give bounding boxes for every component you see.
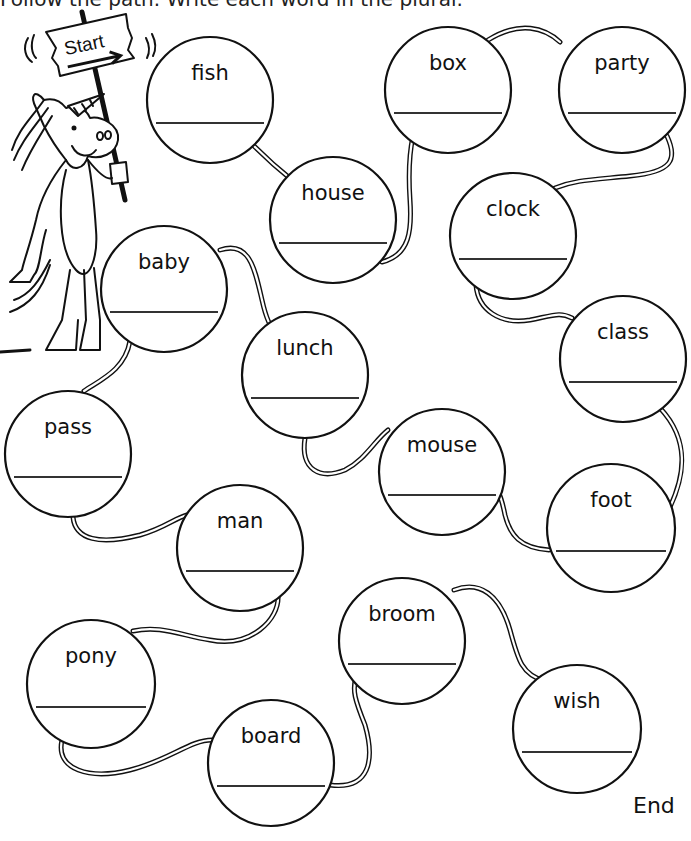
word-circle-board: [208, 700, 334, 826]
path-connector-inner: [330, 678, 369, 786]
word-label: broom: [368, 602, 436, 626]
answer-line[interactable]: [217, 785, 325, 787]
word-circle-mouse: [379, 409, 505, 535]
word-circle-fish: [147, 37, 273, 163]
answer-line[interactable]: [251, 397, 359, 399]
answer-line[interactable]: [14, 476, 122, 478]
word-label: house: [301, 181, 364, 205]
word-circle-wish: [513, 665, 641, 793]
word-label: mouse: [407, 433, 477, 457]
word-circle-class: [560, 296, 686, 422]
end-label: End: [633, 793, 675, 818]
answer-line[interactable]: [348, 663, 456, 665]
answer-line[interactable]: [459, 258, 567, 260]
word-label: party: [594, 51, 650, 75]
path-connector-inner: [254, 146, 292, 180]
word-label: foot: [590, 488, 631, 512]
word-label: clock: [486, 197, 540, 221]
answer-line[interactable]: [388, 494, 496, 496]
word-circle-party: [559, 27, 685, 153]
word-circle-baby: [101, 226, 227, 352]
answer-line[interactable]: [394, 112, 502, 114]
answer-line[interactable]: [110, 311, 218, 313]
word-label: box: [429, 51, 467, 75]
answer-line[interactable]: [556, 550, 666, 552]
word-label: pass: [44, 415, 92, 439]
path-connector-inner: [84, 341, 130, 391]
path-connector-inner: [454, 587, 545, 681]
answer-line[interactable]: [522, 751, 632, 753]
answer-line[interactable]: [156, 122, 264, 124]
path-connector: [330, 678, 369, 786]
word-label: baby: [138, 250, 190, 274]
word-circle-box: [385, 27, 511, 153]
path-connector: [454, 587, 545, 681]
word-circle-pony: [27, 620, 155, 748]
word-label: class: [597, 320, 649, 344]
word-circle-broom: [339, 578, 465, 704]
word-label: pony: [65, 644, 117, 668]
word-circle-house: [270, 157, 396, 283]
answer-line[interactable]: [279, 242, 387, 244]
word-label: wish: [553, 689, 600, 713]
path-connector: [84, 341, 130, 391]
answer-line[interactable]: [569, 381, 677, 383]
word-circle-pass: [5, 391, 131, 517]
word-label: lunch: [276, 336, 333, 360]
word-label: man: [217, 509, 264, 533]
path-board: Start: [0, 0, 691, 841]
word-label: fish: [191, 61, 228, 85]
word-circle-lunch: [242, 312, 368, 438]
word-circle-man: [177, 485, 303, 611]
answer-line[interactable]: [36, 706, 146, 708]
word-circle-clock: [450, 173, 576, 299]
word-label: board: [241, 724, 302, 748]
answer-line[interactable]: [568, 112, 676, 114]
answer-line[interactable]: [186, 570, 294, 572]
word-circle-foot: [547, 464, 675, 592]
